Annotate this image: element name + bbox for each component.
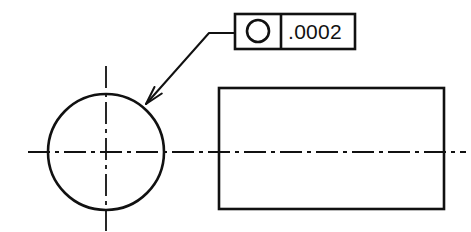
feature-control-frame[interactable]: .0002	[235, 14, 355, 49]
leader-group	[146, 33, 235, 104]
drawing-svg-root: .0002	[0, 0, 471, 232]
leader-line	[146, 33, 235, 104]
tolerance-value-label: .0002	[288, 20, 342, 43]
engineering-drawing-canvas: .0002	[0, 0, 471, 232]
side-view-rectangle	[219, 88, 444, 209]
centerlines-group	[28, 66, 466, 231]
